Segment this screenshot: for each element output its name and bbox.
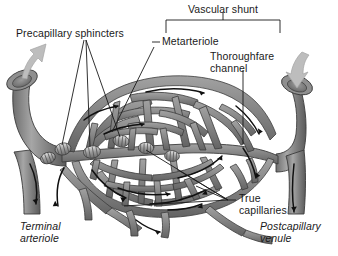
label-thoroughfare-channel: Thoroughfare channel (210, 51, 274, 74)
sphincter-leader-2 (86, 40, 90, 147)
label-terminal-arteriole: Terminal arteriole (20, 221, 61, 244)
label-true-capillaries: True capillaries (239, 193, 287, 216)
label-metarteriole: Metarteriole (162, 36, 219, 48)
label-vascular-shunt: Vascular shunt (163, 4, 283, 16)
label-postcapillary-venule: Postcapillary venule (260, 221, 321, 244)
capillary-bed-figure: Vascular shunt Precapillary sphincters M… (0, 0, 338, 256)
label-precapillary-sphincters: Precapillary sphincters (16, 28, 124, 40)
